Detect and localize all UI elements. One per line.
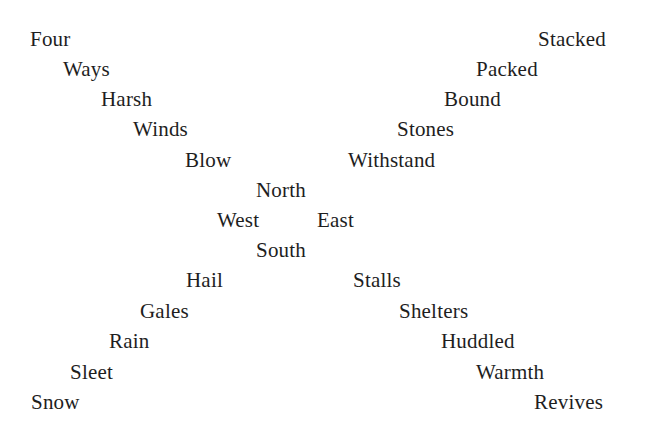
word-packed: Packed [476, 57, 538, 81]
word-ways: Ways [63, 57, 110, 81]
word-west: West [217, 208, 259, 232]
word-snow: Snow [31, 390, 80, 414]
word-stalls: Stalls [353, 268, 401, 292]
word-south: South [256, 238, 306, 262]
word-north: North [256, 178, 306, 202]
word-east: East [317, 208, 354, 232]
word-withstand: Withstand [348, 148, 435, 172]
word-warmth: Warmth [476, 360, 544, 384]
word-shelters: Shelters [399, 299, 468, 323]
word-gales: Gales [140, 299, 189, 323]
word-blow: Blow [185, 148, 231, 172]
word-revives: Revives [534, 390, 603, 414]
word-huddled: Huddled [441, 329, 515, 353]
word-four: Four [30, 27, 70, 51]
word-harsh: Harsh [101, 87, 152, 111]
word-rain: Rain [109, 329, 149, 353]
word-hail: Hail [186, 268, 223, 292]
word-stones: Stones [397, 117, 454, 141]
word-bound: Bound [444, 87, 501, 111]
word-winds: Winds [133, 117, 188, 141]
word-stacked: Stacked [538, 27, 606, 51]
word-sleet: Sleet [70, 360, 113, 384]
